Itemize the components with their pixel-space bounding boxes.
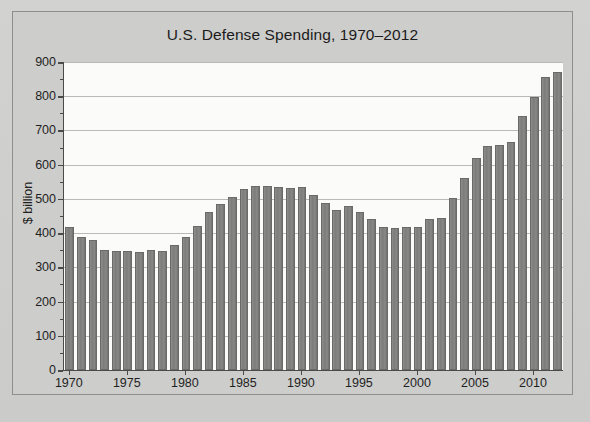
bar — [553, 72, 562, 370]
y-axis-minor-tick-mark — [60, 353, 63, 354]
y-axis-tick-label: 700 — [18, 123, 56, 137]
bar — [65, 227, 74, 370]
bar — [89, 240, 98, 370]
y-axis-minor-tick-mark — [60, 250, 63, 251]
bar — [449, 198, 458, 370]
bar — [321, 203, 330, 370]
x-axis-tick-label: 2010 — [519, 376, 547, 390]
bar — [240, 189, 249, 370]
x-axis-tick-mark — [127, 370, 128, 375]
bar — [77, 237, 86, 370]
x-axis-tick-label: 1995 — [345, 376, 373, 390]
x-axis-tick-label: 1990 — [287, 376, 315, 390]
y-axis-tick-label: 800 — [18, 89, 56, 103]
y-axis-minor-tick-mark — [60, 182, 63, 183]
bar — [205, 212, 214, 370]
y-axis-tick-mark — [58, 233, 63, 235]
y-axis-minor-tick-mark — [60, 113, 63, 114]
bar — [367, 219, 376, 370]
x-axis-tick-mark — [533, 370, 534, 375]
bar — [135, 252, 144, 370]
bar — [332, 210, 341, 370]
y-axis-tick-label: 100 — [18, 329, 56, 343]
x-axis-tick-mark — [475, 370, 476, 375]
bar — [379, 227, 388, 370]
bar — [425, 219, 434, 370]
bar — [356, 212, 365, 370]
bar — [344, 206, 353, 370]
bar — [193, 226, 202, 370]
x-axis-tick-mark — [185, 370, 186, 375]
bar — [286, 188, 295, 370]
bar — [483, 146, 492, 370]
y-axis-tick-labels: 0100200300400500600700800900 — [18, 62, 56, 370]
y-axis-minor-tick-mark — [60, 319, 63, 320]
x-axis-tick-label: 1980 — [171, 376, 199, 390]
bar — [112, 251, 121, 370]
y-axis-tick-mark — [58, 199, 63, 201]
bar — [402, 227, 411, 370]
bar — [541, 77, 550, 370]
x-axis-tick-mark — [243, 370, 244, 375]
x-axis-tick-mark — [417, 370, 418, 375]
figure-canvas: U.S. Defense Spending, 1970–2012 $ billi… — [0, 0, 590, 422]
y-axis-tick-label: 900 — [18, 55, 56, 69]
bar-series — [64, 62, 563, 370]
y-axis-tick-mark — [58, 336, 63, 338]
bar — [147, 250, 156, 370]
chart-title: U.S. Defense Spending, 1970–2012 — [12, 26, 573, 44]
x-axis-tick-label: 2005 — [461, 376, 489, 390]
y-axis-minor-tick-mark — [60, 79, 63, 80]
bar — [530, 97, 539, 370]
bar — [100, 250, 109, 370]
y-axis-minor-tick-mark — [60, 284, 63, 285]
bar — [460, 178, 469, 370]
bar — [507, 142, 516, 370]
y-axis-tick-label: 600 — [18, 158, 56, 172]
y-axis-tick-label: 200 — [18, 295, 56, 309]
bar — [251, 186, 260, 370]
y-axis-tick-mark — [58, 370, 63, 372]
y-axis-tick-mark — [58, 302, 63, 304]
y-axis-tick-label: 500 — [18, 192, 56, 206]
y-axis-tick-mark — [58, 267, 63, 269]
plot-area — [63, 62, 563, 371]
y-axis-tick-mark — [58, 62, 63, 64]
y-axis-tick-label: 0 — [18, 363, 56, 377]
bar — [437, 218, 446, 370]
x-axis-tick-label: 1985 — [229, 376, 257, 390]
bar — [472, 158, 481, 370]
y-axis-minor-tick-mark — [60, 216, 63, 217]
x-axis-tick-label: 2000 — [403, 376, 431, 390]
x-axis-tick-mark — [69, 370, 70, 375]
bar — [414, 227, 423, 370]
x-axis-tick-label: 1970 — [55, 376, 83, 390]
y-axis-tick-mark — [58, 96, 63, 98]
bar — [309, 195, 318, 370]
bar — [495, 145, 504, 370]
bar — [228, 197, 237, 370]
bar — [391, 228, 400, 370]
y-axis-tick-mark — [58, 165, 63, 167]
bar — [182, 237, 191, 370]
bar — [298, 187, 307, 370]
bar — [274, 187, 283, 370]
x-axis-tick-mark — [301, 370, 302, 375]
bar — [158, 251, 167, 370]
bar — [263, 186, 272, 370]
x-axis-tick-label: 1975 — [113, 376, 141, 390]
bar — [216, 204, 225, 370]
bar — [170, 245, 179, 370]
y-axis-tick-label: 300 — [18, 260, 56, 274]
y-axis-minor-tick-mark — [60, 148, 63, 149]
y-axis-tick-label: 400 — [18, 226, 56, 240]
bar — [518, 116, 527, 370]
bar — [123, 251, 132, 370]
y-axis-tick-mark — [58, 130, 63, 132]
x-axis-tick-mark — [359, 370, 360, 375]
